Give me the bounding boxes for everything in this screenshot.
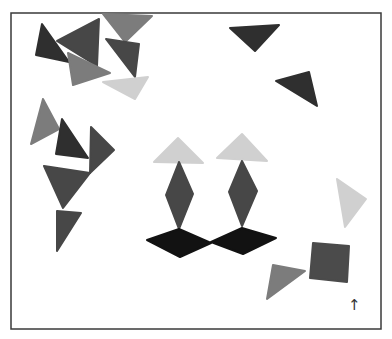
triangle-right-light [337, 179, 366, 227]
triangle-top-medium [103, 14, 152, 42]
triangle-top-right-dark [230, 25, 279, 51]
triangle-left-dark-large [44, 166, 90, 208]
figure-right-body-diamond [229, 161, 257, 226]
triangle-top-light [103, 77, 148, 99]
figure-left-body-diamond [166, 162, 193, 229]
triangle-left-darkest [56, 119, 88, 158]
figure-left-head-triangle [154, 138, 203, 163]
triangle-bottom-medium [267, 265, 305, 299]
figure-left [147, 138, 211, 257]
assembled-figures [147, 134, 276, 257]
triangle-top-dark-small [106, 39, 139, 77]
figure-left-base-rhombus [147, 229, 211, 257]
triangle-left-dark-right [90, 127, 114, 173]
scattered-shapes [31, 14, 366, 299]
tangram-scene [0, 0, 392, 339]
triangle-left-dark-bottom [57, 211, 81, 251]
up-arrow-icon: ↑ [348, 298, 361, 313]
figure-right-base-rhombus [211, 228, 276, 254]
triangle-left-medium [31, 99, 59, 144]
triangle-right-dark [276, 72, 317, 106]
figure-right [211, 134, 276, 254]
square-bottom-right [310, 243, 349, 282]
figure-right-head-triangle [217, 134, 267, 161]
